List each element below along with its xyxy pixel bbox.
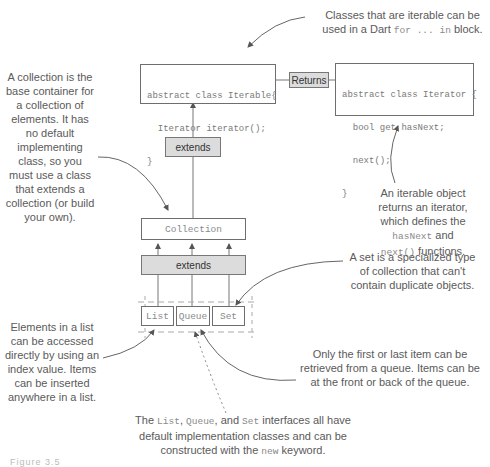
extends-label-top: extends: [165, 137, 221, 157]
iterator-code-line-1: abstract class Iterator {: [342, 90, 467, 101]
set-class-box: Set: [212, 306, 245, 326]
code-for-in: for ... in: [394, 25, 451, 36]
iterable-code-line-3: }: [147, 157, 269, 168]
set-annotation: A set is a specialized type of collectio…: [345, 250, 480, 292]
code-queue: Queue: [186, 416, 215, 427]
bottom-annotation: The List, Queue, and Set interfaces all …: [118, 413, 368, 459]
iterator-code-line-3: next();: [342, 156, 467, 167]
extends-label-bottom: extends: [141, 255, 246, 275]
returns-label: Returns: [289, 72, 329, 88]
list-class-box: List: [141, 306, 174, 326]
iterable-code-line-2: Iterator iterator();: [147, 124, 269, 135]
collection-annotation: A collection is the base container for a…: [5, 70, 95, 224]
iterable-annotation: Classes that are iterable can be used in…: [315, 8, 490, 38]
queue-annotation: Only the first or last item can be retri…: [300, 347, 480, 389]
figure-caption: Figure 3.5: [10, 457, 61, 467]
list-annotation: Elements in a list can be accessed direc…: [3, 320, 101, 404]
iterator-annotation: An iterable object returns an iterator, …: [368, 186, 478, 260]
iterable-class-box: abstract class Iterable{ Iterator iterat…: [140, 64, 276, 104]
collection-class-box: Collection: [141, 218, 246, 240]
queue-class-box: Queue: [176, 306, 210, 326]
iterable-code-line-1: abstract class Iterable{: [147, 91, 269, 102]
iterator-code-line-2: bool get hasNext;: [342, 123, 467, 134]
code-new: new: [261, 446, 278, 457]
iterator-class-box: abstract class Iterator { bool get hasNe…: [335, 63, 474, 116]
code-list: List: [157, 416, 180, 427]
code-set: Set: [242, 416, 259, 427]
code-hasnext: hasNext: [392, 231, 432, 242]
